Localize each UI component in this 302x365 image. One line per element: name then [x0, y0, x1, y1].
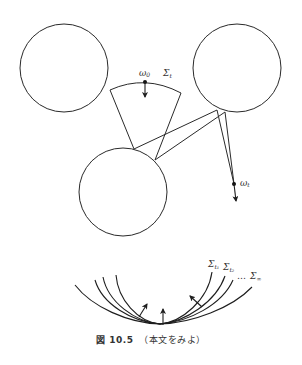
ray-2	[155, 112, 225, 160]
normal-arrow-left	[139, 304, 147, 317]
sigma-t2-label: Σt₂	[222, 262, 235, 273]
circle-right	[193, 24, 281, 112]
sector-left-edge	[110, 90, 134, 149]
normal-arrow-right	[190, 296, 202, 307]
sigma-t1-label: Σt₁	[207, 259, 219, 270]
omega0-label: ω0	[139, 68, 150, 78]
figure-caption: 図 10.5（本文をみよ）	[0, 333, 302, 346]
omegat-arrow	[234, 184, 236, 201]
ellipsis-label: …	[237, 271, 246, 281]
ray-1	[134, 110, 217, 149]
sigma-infinity-label: Σ∞	[249, 271, 261, 282]
ray-3	[217, 110, 234, 184]
caption-text: （本文をみよ）	[139, 335, 206, 345]
circle-left	[20, 24, 108, 112]
figure-number: 図 10.5	[96, 335, 133, 345]
upper-diagram: ω0 Σt ωt	[20, 24, 281, 236]
sector-right-edge	[155, 93, 181, 160]
sigma-t-label: Σt	[162, 68, 172, 79]
lower-diagram: Σt₁ Σt₂ … Σ∞	[75, 259, 261, 325]
figure-canvas: ω0 Σt ωt Σt₁ Σt₂ … Σ∞	[0, 0, 302, 365]
omegat-label: ωt	[240, 178, 250, 188]
ray-4	[225, 112, 234, 184]
circle-bottom	[79, 148, 167, 236]
